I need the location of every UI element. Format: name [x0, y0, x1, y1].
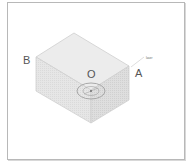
leader-line: [131, 57, 144, 67]
label-o: O: [87, 69, 96, 80]
origin-point: [90, 90, 92, 92]
label-a: A: [135, 68, 142, 79]
label-b: B: [23, 55, 30, 66]
isometric-box-diagram: [0, 0, 191, 166]
tag-label: laser: [146, 57, 153, 60]
